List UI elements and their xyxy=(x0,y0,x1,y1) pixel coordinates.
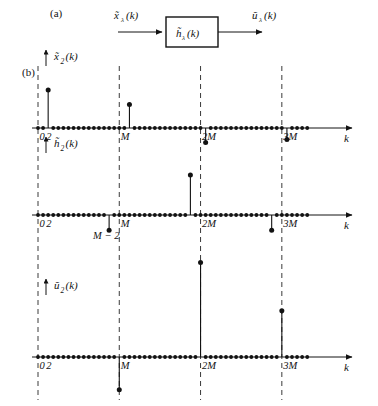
x-axis-label-u2: k xyxy=(344,361,350,373)
sample-dot xyxy=(97,213,101,217)
output-signal-argument: (k) xyxy=(264,9,277,22)
panel-a-tag: (a) xyxy=(50,7,63,20)
sample-dot xyxy=(143,213,147,217)
panel-b-tag: (b) xyxy=(22,66,35,79)
stem-plot-u2: ũ2(k)k02M2M3M xyxy=(32,260,352,392)
sample-dot xyxy=(260,213,264,217)
sample-dot xyxy=(229,213,233,217)
x-axis-label-h2: k xyxy=(344,219,350,231)
sample-dot xyxy=(158,213,162,217)
sample-dot xyxy=(255,126,259,130)
sample-dot xyxy=(239,213,243,217)
sample-dot xyxy=(305,213,309,217)
sample-dot xyxy=(244,213,248,217)
sample-dot xyxy=(138,355,142,359)
sample-dot xyxy=(82,126,86,130)
sample-dot xyxy=(143,355,147,359)
sample-dot xyxy=(183,126,187,130)
sample-dot xyxy=(168,213,172,217)
signal-label-symbol-h2: h̃ xyxy=(54,137,60,149)
sample-dot xyxy=(112,355,116,359)
sample-dot xyxy=(189,126,193,130)
sample-dot xyxy=(153,126,157,130)
sample-dot xyxy=(295,355,299,359)
sample-dot xyxy=(260,126,264,130)
sample-dot xyxy=(117,126,121,130)
sample-dot xyxy=(300,213,304,217)
sample-dot xyxy=(51,213,55,217)
sample-dot xyxy=(234,355,238,359)
sample-dot xyxy=(280,126,284,130)
sample-dot xyxy=(87,355,91,359)
sample-dot xyxy=(285,213,289,217)
sample-dot xyxy=(275,213,279,217)
figure-svg: (a) x̃ λ (k) h̃ λ (k) ũ λ (k) xyxy=(0,0,378,406)
signal-label-argument-h2: (k) xyxy=(66,137,79,150)
sample-dot xyxy=(128,213,132,217)
sample-dot xyxy=(112,126,116,130)
sample-dot xyxy=(239,126,243,130)
sample-dot xyxy=(153,355,157,359)
sample-dot xyxy=(214,213,218,217)
sample-dot xyxy=(51,355,55,359)
sample-dot xyxy=(178,213,182,217)
x-tick-label: 0 xyxy=(40,218,46,229)
sample-dot xyxy=(77,213,81,217)
sample-dot xyxy=(209,213,213,217)
sample-dot xyxy=(183,213,187,217)
sample-dot xyxy=(295,213,299,217)
stem-head xyxy=(127,102,132,107)
sample-dot xyxy=(82,355,86,359)
sample-dot xyxy=(265,213,269,217)
sample-dot xyxy=(77,126,81,130)
sample-dot xyxy=(56,213,60,217)
output-signal-label: ũ λ (k) xyxy=(252,9,277,24)
sample-dot xyxy=(280,213,284,217)
sample-dot xyxy=(87,213,91,217)
sample-dot xyxy=(148,126,152,130)
signal-label-subscript-x2: 2 xyxy=(61,57,65,66)
sample-dot xyxy=(244,355,248,359)
sample-dot xyxy=(107,126,111,130)
sample-dot xyxy=(92,213,96,217)
x-tick-label: 2M xyxy=(202,131,217,142)
sample-dot xyxy=(183,355,187,359)
sample-dot xyxy=(255,213,259,217)
sample-dot xyxy=(189,355,193,359)
sample-dot xyxy=(260,355,264,359)
sample-dot xyxy=(163,355,167,359)
sample-dot xyxy=(178,126,182,130)
sample-dot xyxy=(133,126,137,130)
sample-dot xyxy=(62,355,66,359)
panel-b: (b) x̃2(k)k02M2M3Mh̃2(k)k02M2M3MM − 2ũ2… xyxy=(22,50,352,400)
sample-dot xyxy=(249,213,253,217)
x-tick-label: 2M xyxy=(202,360,217,371)
x-tick-label: M xyxy=(120,131,131,142)
annotation-m-minus-2: M − 2 xyxy=(92,230,120,241)
sample-dot xyxy=(224,126,228,130)
x-tick-label: 2M xyxy=(202,218,217,229)
x-tick-label: 2 xyxy=(46,218,52,229)
output-signal-subscript: λ xyxy=(258,16,262,24)
sample-dot xyxy=(143,126,147,130)
sample-dot xyxy=(102,126,106,130)
sample-dot xyxy=(56,126,60,130)
sample-dot xyxy=(133,355,137,359)
sample-dot xyxy=(300,355,304,359)
sample-dot xyxy=(163,126,167,130)
sample-dot xyxy=(158,355,162,359)
sample-dot xyxy=(229,126,233,130)
sample-dot xyxy=(239,355,243,359)
sample-dot xyxy=(249,355,253,359)
sample-dot xyxy=(36,126,40,130)
sample-dot xyxy=(219,126,223,130)
sample-dot xyxy=(92,355,96,359)
sample-dot xyxy=(214,126,218,130)
figure-container: (a) x̃ λ (k) h̃ λ (k) ũ λ (k) xyxy=(0,0,378,406)
x-tick-label: 2 xyxy=(46,360,52,371)
sample-dot xyxy=(138,213,142,217)
x-axis-label-x2: k xyxy=(344,132,350,144)
sample-dot xyxy=(194,213,198,217)
sample-dot xyxy=(46,355,50,359)
sample-dot xyxy=(138,126,142,130)
